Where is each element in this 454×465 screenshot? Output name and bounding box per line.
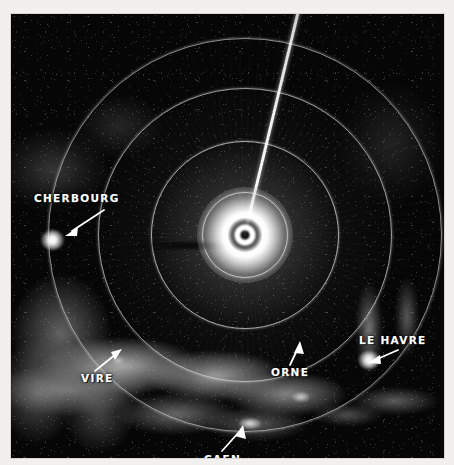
map-label-orne: ORNE <box>271 367 309 378</box>
map-label-le-havre: LE HAVRE <box>359 335 427 346</box>
map-label-caen: CAEN <box>204 454 241 458</box>
pointer-arrow-caen <box>11 14 444 458</box>
map-label-vire: VIRE <box>81 373 114 384</box>
map-label-cherbourg: CHERBOURG <box>34 193 120 204</box>
annotation-overlay: CHERBOURG VIRE LE HAVRE ORNE CAEN <box>11 14 444 458</box>
radar-ppi-scope: CHERBOURG VIRE LE HAVRE ORNE CAEN <box>11 14 444 458</box>
